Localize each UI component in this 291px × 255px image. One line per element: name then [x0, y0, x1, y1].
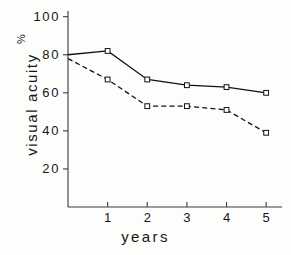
data-point-marker [224, 108, 229, 113]
series-line-dashed-series [68, 59, 266, 133]
data-point-marker [224, 85, 229, 90]
data-point-marker [145, 104, 150, 109]
plot-area [0, 0, 291, 255]
data-series-group [68, 49, 269, 136]
data-point-marker [184, 83, 189, 88]
data-point-marker [145, 77, 150, 82]
chart-figure: visual acuity % years 20406080100 12345 [0, 0, 291, 255]
y-axis-ticks [63, 17, 68, 169]
data-point-marker [105, 77, 110, 82]
axes [63, 11, 282, 207]
x-axis-ticks [108, 202, 267, 207]
data-point-marker [184, 104, 189, 109]
series-line-solid-series [68, 51, 266, 93]
data-point-marker [264, 90, 269, 95]
data-point-marker [105, 49, 110, 54]
data-point-marker [264, 130, 269, 135]
